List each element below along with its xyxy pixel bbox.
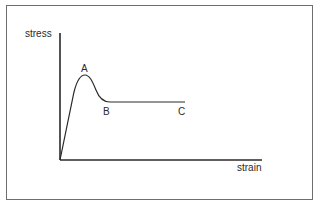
point-label-a: A: [81, 64, 88, 74]
y-axis-label: stress: [25, 29, 52, 39]
point-label-c: C: [178, 107, 185, 117]
point-label-b: B: [103, 107, 110, 117]
stress-strain-curve: [60, 75, 185, 160]
x-axis-label: strain: [237, 163, 261, 173]
